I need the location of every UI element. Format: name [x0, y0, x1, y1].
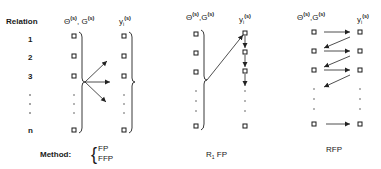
panel-fp-ffp: Θ(s), G(s) yi(s) Method: { FP FFP [40, 15, 135, 164]
y-header: yi(s) [239, 13, 251, 25]
arrow-back [324, 56, 350, 67]
panel-rfp: Θ(s),G(s) yi(s) RFP [297, 11, 369, 154]
panel-r1fp: Θ(s),G(s) yi(s) R1 FP [186, 11, 251, 160]
theta-node [194, 32, 198, 36]
y-node [122, 34, 126, 38]
ellipsis-dot [195, 90, 196, 91]
y-node [243, 31, 247, 35]
rfp-caption: RFP [326, 145, 342, 154]
ellipsis-dot [73, 112, 74, 113]
theta-node [312, 122, 316, 126]
theta-brace [79, 32, 85, 133]
ellipsis-dot [123, 103, 124, 104]
y-node [358, 49, 362, 53]
theta-brace [201, 30, 207, 130]
theta-node [72, 74, 76, 78]
ellipsis-dot [313, 98, 314, 99]
ellipsis-dot [244, 100, 245, 101]
y-node [243, 69, 247, 73]
row-ellipsis-dot [29, 103, 31, 105]
ellipsis-dot [359, 88, 360, 89]
ellipsis-dot [73, 94, 74, 95]
row-label-3: 3 [28, 72, 33, 81]
method-option-ffp: FFP [98, 154, 113, 163]
arrow-back [324, 37, 350, 48]
row-label-2: 2 [28, 53, 33, 62]
ellipsis-dot [359, 108, 360, 109]
y-node [243, 50, 247, 54]
theta-node [194, 124, 198, 128]
arrow-back [324, 75, 350, 87]
y-header: yi(s) [357, 13, 369, 25]
ellipsis-dot [359, 98, 360, 99]
r1fp-caption: R1 FP [206, 150, 227, 160]
method-brace: { [91, 144, 97, 164]
theta-g-header: Θ(s),G(s) [297, 11, 325, 22]
ellipsis-dot [123, 94, 124, 95]
y-node [358, 68, 362, 72]
theta-node [312, 30, 316, 34]
method-option-fp: FP [98, 144, 108, 153]
method-label: Method: [40, 150, 71, 159]
row-ellipsis-dot [29, 94, 31, 96]
theta-node [312, 68, 316, 72]
ellipsis-dot [123, 112, 124, 113]
ellipsis-dot [244, 90, 245, 91]
theta-node [72, 54, 76, 58]
y-node [358, 30, 362, 34]
y-node [358, 122, 362, 126]
arrow-to-first-y [207, 35, 243, 80]
theta-g-header: Θ(s),G(s) [186, 11, 214, 22]
theta-g-header: Θ(s), G(s) [64, 15, 95, 26]
y-brace [129, 32, 135, 133]
ellipsis-dot [313, 88, 314, 89]
y-header: yi(s) [119, 15, 131, 27]
theta-node [312, 49, 316, 53]
row-ellipsis-dot [29, 112, 31, 114]
arrow-up [85, 61, 107, 82]
y-node [122, 54, 126, 58]
arrow-down [85, 82, 106, 102]
ellipsis-dot [244, 110, 245, 111]
ellipsis-dot [313, 108, 314, 109]
theta-node [72, 128, 76, 132]
y-node [243, 124, 247, 128]
y-node [122, 128, 126, 132]
ellipsis-dot [195, 100, 196, 101]
ellipsis-dot [195, 110, 196, 111]
ellipsis-dot [73, 103, 74, 104]
y-node [122, 74, 126, 78]
row-label-n: n [28, 126, 33, 135]
relation-header: Relation [6, 17, 38, 26]
theta-node [72, 34, 76, 38]
method-diagram: Relation 1 2 3 n Θ(s), G(s) yi(s) Method… [0, 0, 381, 169]
row-label-1: 1 [28, 35, 33, 44]
theta-node [194, 70, 198, 74]
theta-node [194, 51, 198, 55]
